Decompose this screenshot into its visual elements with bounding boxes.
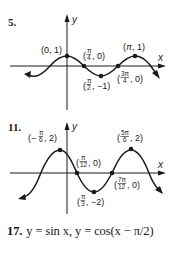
label-pi-1: (π, 1) xyxy=(123,42,145,52)
point-7pi12-0 xyxy=(110,171,115,176)
svg-text:(: ( xyxy=(117,133,120,143)
label-0-1: (0, 1) xyxy=(41,45,62,55)
point-0-1 xyxy=(65,54,70,59)
curve-right-arrow-icon xyxy=(152,70,160,79)
point-pi3-neg2 xyxy=(92,190,97,195)
svg-text:12: 12 xyxy=(80,161,88,168)
svg-text:7π: 7π xyxy=(118,176,127,183)
svg-text:4: 4 xyxy=(87,54,91,61)
point-neg-pi6-2 xyxy=(58,148,63,153)
point-pi4-0 xyxy=(82,64,87,69)
point-pi-1 xyxy=(133,54,138,59)
problem-number-5: 5. xyxy=(8,16,17,28)
x-axis-arrow-icon xyxy=(158,64,166,69)
answer-17-text: y = sin x, y = cos(x − π/2) xyxy=(26,224,153,238)
svg-text:, 0): , 0) xyxy=(130,74,143,84)
x-axis-label: x xyxy=(157,52,164,63)
svg-text:, 0): , 0) xyxy=(127,180,140,190)
svg-text:6: 6 xyxy=(123,136,127,143)
graph-problem-11: 11. y x (− π 6 , 2) ( π 12 , 0 xyxy=(8,121,166,214)
svg-text:, −2): , −2) xyxy=(86,197,104,207)
point-5pi6-2 xyxy=(129,147,134,152)
svg-text:(: ( xyxy=(83,51,86,61)
svg-text:(: ( xyxy=(77,197,80,207)
x-axis-label: x xyxy=(157,159,164,170)
svg-text:12: 12 xyxy=(118,183,126,190)
label-pi12-0: ( π 12 , 0) xyxy=(76,154,101,168)
svg-text:, 0): , 0) xyxy=(88,158,101,168)
svg-text:, 0): , 0) xyxy=(92,51,105,61)
svg-text:(: ( xyxy=(114,180,117,190)
label-pi3-neg2: ( π 3 , −2) xyxy=(77,193,104,207)
label-neg-pi6-2: (− π 6 , 2) xyxy=(28,129,57,143)
y-axis-label: y xyxy=(71,14,78,25)
curve-left-arrow-icon xyxy=(24,71,31,78)
label-pi4-0: ( π 4 , 0) xyxy=(83,47,105,61)
svg-text:6: 6 xyxy=(39,136,43,143)
label-7pi12-0: ( 7π 12 , 0) xyxy=(114,176,140,190)
svg-text:3: 3 xyxy=(81,200,85,207)
svg-text:, 2): , 2) xyxy=(44,133,57,143)
point-3pi4-0 xyxy=(116,64,121,69)
svg-text:2: 2 xyxy=(87,84,91,91)
x-axis-arrow-icon xyxy=(158,171,166,176)
svg-text:5π: 5π xyxy=(121,129,130,136)
svg-text:(: ( xyxy=(76,158,79,168)
svg-text:(: ( xyxy=(83,81,86,91)
graph-problem-5: 5. y x (0, 1) ( π 4 , 0) ( π 2 xyxy=(8,14,166,110)
svg-text:4: 4 xyxy=(123,77,127,84)
curve-left-arrow-icon xyxy=(18,194,26,200)
svg-text:, 2): , 2) xyxy=(130,133,143,143)
svg-text:, −1): , −1) xyxy=(92,81,110,91)
y-axis-arrow-icon xyxy=(65,14,70,22)
point-pi12-0 xyxy=(75,171,80,176)
label-5pi6-2: ( 5π 6 , 2) xyxy=(117,129,143,143)
svg-text:3π: 3π xyxy=(121,70,130,77)
y-axis-arrow-icon xyxy=(65,122,70,130)
label-3pi4-0: ( 3π 4 , 0) xyxy=(117,70,143,84)
y-axis-label: y xyxy=(71,121,78,132)
point-pi2-neg1 xyxy=(99,74,104,79)
problem-number-17: 17. xyxy=(7,224,22,238)
problem-number-11: 11. xyxy=(8,121,21,133)
svg-text:π: π xyxy=(81,154,86,161)
answer-17: 17.y = sin x, y = cos(x − π/2) xyxy=(7,224,154,239)
svg-text:(−: (− xyxy=(28,133,36,143)
svg-text:(: ( xyxy=(117,74,120,84)
label-pi2-neg1: ( π 2 , −1) xyxy=(83,77,110,91)
